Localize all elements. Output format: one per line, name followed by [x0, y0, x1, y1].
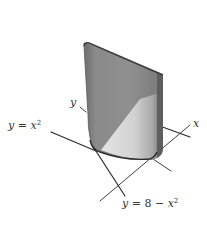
solid-right-rim: [157, 72, 163, 158]
y-axis-label: y: [70, 97, 76, 108]
solid-body: [84, 43, 163, 160]
y-axis-line: [80, 107, 86, 112]
curve-label-y-equals-8-minus-x-squared: y = 8 − x2: [122, 198, 178, 209]
curve-label-y-equals-x-squared: y = x2: [8, 120, 41, 131]
x-axis-label: x: [193, 118, 199, 129]
solid-region-diagram: [0, 0, 207, 229]
